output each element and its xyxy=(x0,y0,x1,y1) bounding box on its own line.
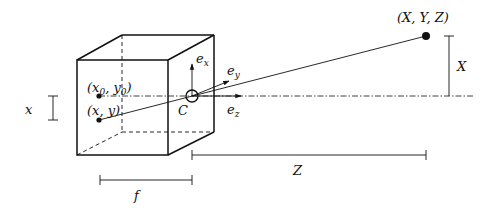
world-height-dimension xyxy=(444,36,454,96)
projection-ray xyxy=(99,36,426,120)
depth-dimension xyxy=(192,150,426,160)
camera-center-label: C xyxy=(178,103,188,118)
image-point-label: (x, y) xyxy=(87,103,120,118)
focal-length-dimension xyxy=(100,175,192,185)
image-height-label: x xyxy=(25,102,33,117)
bottom-edge-right xyxy=(168,132,214,155)
top-edge-left xyxy=(77,35,122,60)
principal-point-label: (x0, y0) xyxy=(87,80,132,97)
world-point-dot xyxy=(422,32,430,40)
ey-label: ey xyxy=(227,63,241,80)
world-height-label: X xyxy=(456,59,467,74)
ez-label: ez xyxy=(227,102,240,119)
depth-label: Z xyxy=(292,163,303,178)
ex-label: ex xyxy=(196,51,209,68)
pinhole-camera-diagram: (X, Y, Z) X (x0, y0) (x, y) C ex ey ez x… xyxy=(0,0,500,214)
image-height-dimension xyxy=(48,96,58,120)
focal-length-label: f xyxy=(133,188,141,203)
world-point-label: (X, Y, Z) xyxy=(397,10,449,25)
top-edge-right xyxy=(168,35,214,60)
hidden-edge-diagonal xyxy=(77,132,122,155)
image-point-dot xyxy=(96,117,101,122)
